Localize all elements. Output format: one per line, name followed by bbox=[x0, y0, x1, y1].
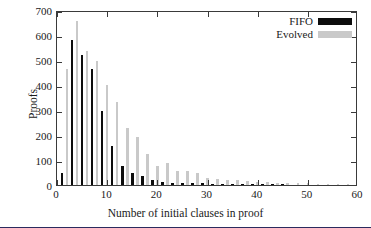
bar-fifo-x27 bbox=[191, 183, 194, 185]
legend-swatch-evolved bbox=[318, 31, 352, 38]
x-tick-label: 20 bbox=[151, 189, 162, 200]
y-tick-label: 300 bbox=[36, 106, 53, 117]
x-tick-mark bbox=[57, 12, 58, 17]
x-tick-label: 40 bbox=[251, 189, 262, 200]
bar-fifo-x7 bbox=[91, 69, 94, 185]
x-tick-label: 0 bbox=[53, 189, 59, 200]
legend-swatch-fifo bbox=[318, 18, 352, 25]
x-tick-mark bbox=[308, 180, 309, 185]
bar-fifo-x17 bbox=[141, 176, 144, 186]
y-tick-mark bbox=[57, 87, 62, 88]
bar-evolved-x58 bbox=[347, 184, 350, 185]
y-tick-mark bbox=[351, 87, 356, 88]
y-tick-label: 0 bbox=[47, 181, 53, 192]
bar-evolved-x10 bbox=[106, 85, 109, 185]
bar-fifo-x11 bbox=[111, 146, 114, 186]
y-tick-label: 100 bbox=[36, 156, 53, 167]
bar-evolved-x28 bbox=[196, 173, 199, 185]
y-tick-mark bbox=[351, 162, 356, 163]
bar-fifo-x33 bbox=[221, 184, 224, 185]
plot-area: FIFO Evolved bbox=[56, 11, 357, 186]
bar-evolved-x44 bbox=[276, 183, 279, 186]
bar-fifo-x23 bbox=[171, 183, 174, 186]
x-tick-label: 60 bbox=[352, 189, 363, 200]
y-tick-mark bbox=[351, 62, 356, 63]
x-tick-mark bbox=[157, 180, 158, 185]
bar-evolved-x6 bbox=[86, 51, 89, 186]
x-tick-mark bbox=[258, 180, 259, 185]
bar-fifo-x5 bbox=[81, 55, 84, 185]
y-tick-mark bbox=[57, 37, 62, 38]
legend-item-evolved: Evolved bbox=[276, 28, 352, 41]
y-tick-label: 200 bbox=[36, 131, 53, 142]
chart-legend: FIFO Evolved bbox=[276, 15, 352, 41]
x-tick-mark bbox=[258, 12, 259, 17]
chart-figure: Proofs Number of initial clauses in proo… bbox=[0, 0, 371, 228]
bar-fifo-x21 bbox=[161, 182, 164, 186]
bar-evolved-x54 bbox=[327, 184, 330, 185]
bar-evolved-x16 bbox=[136, 137, 139, 185]
bar-evolved-x38 bbox=[246, 181, 249, 185]
bar-evolved-x46 bbox=[286, 183, 289, 185]
bar-evolved-x18 bbox=[146, 154, 149, 185]
bar-evolved-x36 bbox=[236, 180, 239, 185]
bar-evolved-x52 bbox=[317, 184, 320, 186]
bar-fifo-x13 bbox=[121, 166, 124, 185]
bar-evolved-x22 bbox=[166, 163, 169, 185]
bar-evolved-x48 bbox=[297, 183, 300, 185]
page-divider-rule bbox=[0, 227, 371, 228]
bar-fifo-x43 bbox=[271, 184, 274, 185]
bar-fifo-x31 bbox=[211, 184, 214, 185]
bar-evolved-x14 bbox=[126, 128, 129, 186]
y-tick-label: 700 bbox=[36, 6, 53, 17]
y-tick-mark bbox=[57, 112, 62, 113]
bar-fifo-x1 bbox=[61, 173, 64, 185]
legend-label-evolved: Evolved bbox=[276, 28, 313, 41]
bar-evolved-x12 bbox=[116, 102, 119, 185]
bar-fifo-x19 bbox=[151, 180, 154, 186]
bar-fifo-x15 bbox=[131, 173, 134, 186]
bar-fifo-x41 bbox=[261, 184, 264, 185]
x-axis-title: Number of initial clauses in proof bbox=[0, 207, 371, 219]
bar-fifo-x35 bbox=[231, 184, 234, 185]
y-tick-mark bbox=[351, 12, 356, 13]
bar-evolved-x42 bbox=[266, 182, 269, 185]
y-tick-mark bbox=[57, 137, 62, 138]
y-tick-label: 400 bbox=[36, 81, 53, 92]
bar-fifo-x37 bbox=[241, 184, 244, 185]
x-tick-label: 30 bbox=[201, 189, 212, 200]
bar-fifo-x45 bbox=[281, 184, 284, 185]
bar-evolved-x8 bbox=[96, 61, 99, 186]
bar-evolved-x2 bbox=[66, 69, 69, 185]
x-tick-mark bbox=[157, 12, 158, 17]
y-tick-mark bbox=[351, 137, 356, 138]
bar-fifo-x25 bbox=[181, 183, 184, 186]
x-tick-mark bbox=[208, 180, 209, 185]
bar-fifo-x39 bbox=[251, 184, 254, 185]
y-tick-label: 600 bbox=[36, 31, 53, 42]
bar-fifo-x29 bbox=[201, 183, 204, 185]
x-tick-mark bbox=[208, 12, 209, 17]
bar-evolved-x34 bbox=[226, 180, 229, 186]
y-tick-mark bbox=[57, 62, 62, 63]
y-tick-mark bbox=[351, 112, 356, 113]
legend-label-fifo: FIFO bbox=[289, 15, 313, 28]
bar-evolved-x24 bbox=[176, 171, 179, 185]
bar-evolved-x4 bbox=[76, 21, 79, 185]
bar-fifo-x3 bbox=[71, 40, 74, 185]
bar-fifo-x9 bbox=[101, 111, 104, 186]
bar-evolved-x56 bbox=[337, 184, 340, 185]
bar-evolved-x26 bbox=[186, 171, 189, 185]
x-tick-mark bbox=[107, 12, 108, 17]
x-tick-mark bbox=[57, 180, 58, 185]
x-tick-label: 50 bbox=[301, 189, 312, 200]
legend-item-fifo: FIFO bbox=[276, 15, 352, 28]
y-tick-mark bbox=[57, 162, 62, 163]
bar-evolved-x32 bbox=[216, 179, 219, 185]
x-tick-mark bbox=[107, 180, 108, 185]
y-tick-label: 500 bbox=[36, 56, 53, 67]
x-tick-label: 10 bbox=[101, 189, 112, 200]
